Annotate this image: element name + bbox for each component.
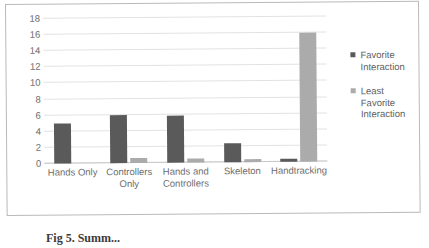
- y-axis-tick-label: 8: [13, 94, 41, 104]
- bar-group: [100, 18, 158, 163]
- plot-area: [43, 16, 327, 163]
- legend-swatch-icon: [350, 52, 355, 57]
- figure-container: 181614121086420 Hands OnlyControllers On…: [0, 0, 429, 248]
- y-axis-tick-label: 16: [12, 30, 40, 40]
- y-axis-tick-label: 18: [12, 14, 40, 24]
- x-axis-tick-label: Skeleton: [214, 165, 271, 177]
- y-axis-tick-label: 0: [13, 159, 41, 169]
- x-axis-tick-label: Hands and Controllers: [157, 165, 214, 188]
- bar-favorite: [224, 144, 241, 163]
- bar-group: [270, 16, 328, 161]
- legend-entry[interactable]: Least Favorite Interaction: [351, 85, 417, 120]
- legend-entry[interactable]: Favorite Interaction: [350, 49, 416, 73]
- x-axis-tick-label: Controllers Only: [101, 166, 158, 189]
- legend-label: Least Favorite Interaction: [361, 85, 417, 120]
- bars-layer: [43, 16, 327, 163]
- legend-swatch-icon: [351, 88, 356, 93]
- y-axis-tick-label: 4: [13, 126, 41, 136]
- bar-favorite: [110, 115, 127, 163]
- bar-group: [43, 18, 101, 163]
- x-axis: Hands OnlyControllers OnlyHands and Cont…: [44, 164, 327, 200]
- bar-least-favorite: [244, 159, 261, 162]
- y-axis-tick-label: 14: [12, 46, 40, 56]
- bar-group: [156, 17, 214, 162]
- y-axis-tick-label: 6: [13, 110, 41, 120]
- chart-legend: Favorite InteractionLeast Favorite Inter…: [350, 49, 417, 133]
- y-axis: 181614121086420: [12, 14, 41, 169]
- figure-caption: Fig 5. Summ...: [46, 231, 120, 248]
- bar-favorite: [54, 123, 71, 163]
- bar-group: [213, 17, 271, 162]
- bar-least-favorite: [131, 158, 148, 163]
- y-axis-tick-label: 2: [13, 143, 41, 153]
- y-axis-tick-label: 10: [13, 78, 41, 88]
- x-axis-tick-label: Handtracking: [271, 164, 328, 176]
- bar-favorite: [167, 116, 184, 163]
- bar-least-favorite: [187, 158, 204, 162]
- chart-frame: 181614121086420 Hands OnlyControllers On…: [5, 1, 421, 216]
- y-axis-tick-label: 12: [12, 62, 40, 72]
- bar-favorite: [280, 158, 297, 161]
- chart-inner: 181614121086420 Hands OnlyControllers On…: [6, 2, 420, 215]
- bar-least-favorite: [299, 33, 317, 162]
- x-axis-tick-label: Hands Only: [44, 166, 101, 178]
- legend-label: Favorite Interaction: [360, 49, 416, 72]
